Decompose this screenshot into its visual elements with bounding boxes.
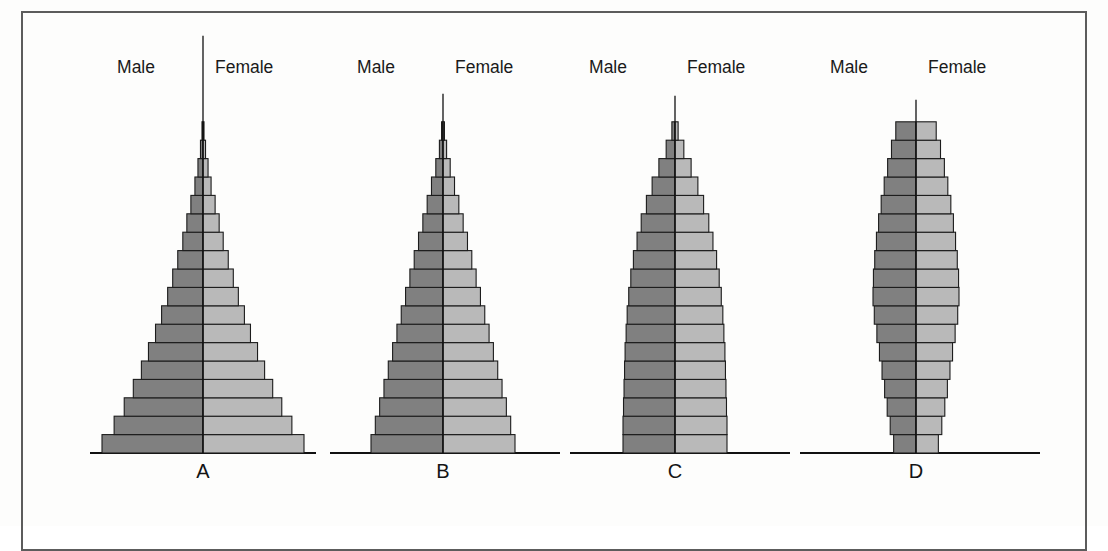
bar-male-b-5 [393, 343, 443, 361]
bar-male-b-9 [410, 269, 443, 287]
bar-female-d-10 [916, 251, 957, 269]
bar-female-a-12 [203, 214, 219, 232]
bar-female-d-16 [916, 140, 941, 158]
bar-male-a-1 [114, 416, 203, 434]
bar-male-b-13 [427, 195, 443, 213]
bar-female-b-2 [443, 398, 506, 416]
bar-male-a-9 [173, 269, 203, 287]
bar-female-c-4 [675, 361, 725, 379]
bar-female-b-14 [443, 177, 455, 195]
bar-female-d-4 [916, 361, 950, 379]
bar-male-d-10 [875, 251, 916, 269]
bar-male-a-13 [191, 195, 203, 213]
bar-male-d-14 [884, 177, 916, 195]
bar-male-b-0 [371, 435, 443, 453]
bar-female-d-5 [916, 343, 953, 361]
bar-male-c-8 [629, 287, 675, 305]
male-legend-label-c: Male [589, 57, 627, 77]
female-legend-label-d: Female [928, 57, 986, 77]
bar-male-d-9 [873, 269, 916, 287]
bar-male-a-2 [124, 398, 203, 416]
bar-female-a-11 [203, 232, 223, 250]
bar-male-a-3 [133, 379, 203, 397]
pyramid-panel-c: MaleFemaleC [570, 57, 790, 482]
bar-female-b-9 [443, 269, 476, 287]
bar-female-d-17 [916, 122, 936, 140]
bar-female-b-1 [443, 416, 511, 434]
bar-female-b-13 [443, 195, 459, 213]
bar-female-a-4 [203, 361, 265, 379]
bar-male-d-5 [879, 343, 916, 361]
bar-female-c-5 [675, 343, 725, 361]
bar-female-d-1 [916, 416, 942, 434]
bar-female-b-11 [443, 232, 467, 250]
bar-male-c-14 [652, 177, 675, 195]
bar-male-c-13 [646, 195, 675, 213]
bar-female-b-4 [443, 361, 498, 379]
male-legend-label-a: Male [117, 57, 155, 77]
bar-female-a-9 [203, 269, 233, 287]
bar-female-d-14 [916, 177, 948, 195]
bar-female-b-3 [443, 379, 502, 397]
bar-female-b-7 [443, 306, 485, 324]
bar-female-d-12 [916, 214, 953, 232]
bar-male-b-4 [388, 361, 443, 379]
bar-female-c-0 [675, 435, 727, 453]
female-legend-label-a: Female [215, 57, 273, 77]
bar-female-d-9 [916, 269, 959, 287]
bar-male-d-1 [890, 416, 916, 434]
bar-male-c-11 [637, 232, 675, 250]
bar-female-a-6 [203, 324, 250, 342]
bar-female-c-16 [675, 140, 684, 158]
female-legend-label-c: Female [687, 57, 745, 77]
bar-female-d-8 [916, 287, 959, 305]
bar-male-b-8 [406, 287, 443, 305]
bar-female-d-2 [916, 398, 945, 416]
pyramid-panel-b: MaleFemaleB [330, 57, 560, 482]
bar-male-d-7 [874, 306, 916, 324]
bar-female-c-2 [675, 398, 726, 416]
bar-female-c-10 [675, 251, 717, 269]
bar-male-a-14 [195, 177, 203, 195]
bar-female-a-5 [203, 343, 258, 361]
bar-male-c-7 [627, 306, 675, 324]
bar-male-b-3 [384, 379, 443, 397]
bar-male-b-1 [375, 416, 443, 434]
bar-male-a-6 [156, 324, 203, 342]
pyramid-panel-d: MaleFemaleD [800, 57, 1040, 482]
panel-label-d: D [909, 460, 923, 482]
bar-female-c-3 [675, 379, 726, 397]
bar-male-b-15 [436, 159, 443, 177]
bar-male-c-12 [641, 214, 675, 232]
bar-male-b-10 [414, 251, 443, 269]
bar-female-c-12 [675, 214, 709, 232]
bar-male-d-0 [894, 435, 916, 453]
bar-male-d-15 [888, 159, 916, 177]
bar-male-b-2 [380, 398, 443, 416]
bar-female-c-9 [675, 269, 719, 287]
bar-female-a-15 [203, 159, 208, 177]
bar-male-d-3 [885, 379, 916, 397]
bar-female-b-10 [443, 251, 472, 269]
female-legend-label-b: Female [455, 57, 513, 77]
bar-male-d-6 [877, 324, 916, 342]
bar-female-a-8 [203, 287, 238, 305]
bar-male-c-0 [623, 435, 675, 453]
bar-female-c-15 [675, 159, 691, 177]
bar-male-a-11 [183, 232, 203, 250]
bar-female-c-1 [675, 416, 727, 434]
bar-male-c-9 [631, 269, 675, 287]
bar-female-c-7 [675, 306, 723, 324]
male-legend-label-b: Male [357, 57, 395, 77]
bar-male-c-3 [624, 379, 675, 397]
bar-female-d-0 [916, 435, 938, 453]
bar-male-a-8 [168, 287, 203, 305]
bar-male-c-1 [623, 416, 675, 434]
bar-male-c-10 [633, 251, 675, 269]
bar-female-a-0 [203, 435, 304, 453]
bar-female-d-3 [916, 379, 947, 397]
bar-female-b-0 [443, 435, 515, 453]
bar-male-d-12 [879, 214, 916, 232]
bar-female-a-13 [203, 195, 215, 213]
